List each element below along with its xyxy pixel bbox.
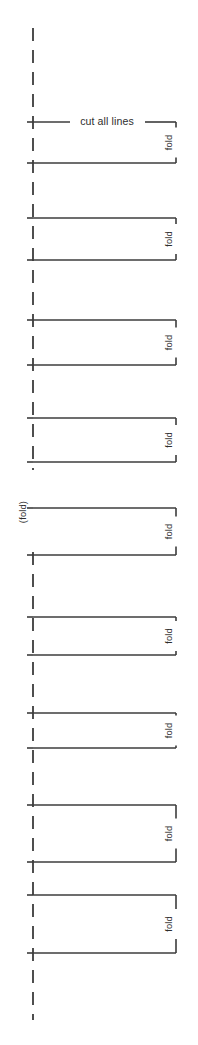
label-group: foldfoldfoldfoldfoldfoldfoldfoldfoldcut …: [17, 115, 174, 932]
cut-bracket-group: [27, 122, 176, 953]
fold-label: fold: [163, 524, 174, 540]
fold-label: fold: [163, 916, 174, 932]
fold-label: fold: [163, 135, 174, 151]
fold-label: fold: [163, 723, 174, 739]
cut-all-lines-label: cut all lines: [80, 115, 134, 127]
fold-label: fold: [163, 231, 174, 247]
fold-side-label: (fold): [17, 501, 28, 523]
fold-label: fold: [163, 628, 174, 644]
cut-and-fold-template-sheet: foldfoldfoldfoldfoldfoldfoldfoldfoldcut …: [0, 0, 198, 1045]
fold-label: fold: [163, 335, 174, 351]
template-diagram: foldfoldfoldfoldfoldfoldfoldfoldfoldcut …: [0, 0, 198, 1045]
fold-label: fold: [163, 826, 174, 842]
fold-label: fold: [163, 432, 174, 448]
